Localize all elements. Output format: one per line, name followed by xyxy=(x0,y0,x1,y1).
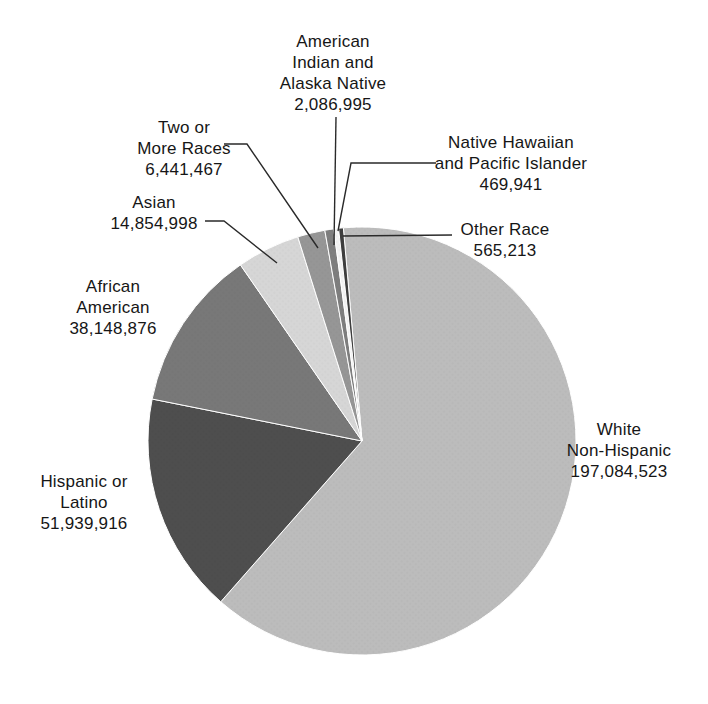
label-line: and Pacific Islander xyxy=(435,153,587,174)
label-line: Latino xyxy=(40,492,127,513)
label-native-hawaiian-pacific-islander: Native Hawaiian and Pacific Islander 469… xyxy=(435,132,587,195)
leader-line-other-race xyxy=(343,235,452,236)
label-value: 565,213 xyxy=(461,240,550,261)
label-line: American xyxy=(280,31,387,52)
label-hispanic-or-latino: Hispanic or Latino 51,939,916 xyxy=(40,471,127,534)
halftone-texture xyxy=(148,227,576,655)
leader-line-native-hawaiian-pacific-islander xyxy=(338,163,436,231)
label-line: Asian xyxy=(110,192,197,213)
label-line: Indian and xyxy=(280,52,387,73)
label-line: American xyxy=(69,297,156,318)
label-white-non-hispanic: White Non-Hispanic 197,084,523 xyxy=(567,419,671,482)
label-line: Native Hawaiian xyxy=(435,132,587,153)
label-line: Alaska Native xyxy=(280,73,387,94)
leader-line-american-indian-alaska-native xyxy=(334,117,336,245)
label-american-indian-alaska-native: American Indian and Alaska Native 2,086,… xyxy=(280,31,387,115)
label-line: More Races xyxy=(137,138,231,159)
label-value: 38,148,876 xyxy=(69,318,156,339)
label-value: 6,441,467 xyxy=(137,159,231,180)
label-line: Two or xyxy=(137,117,231,138)
label-line: Non-Hispanic xyxy=(567,440,671,461)
label-other-race: Other Race 565,213 xyxy=(461,219,550,261)
label-value: 14,854,998 xyxy=(110,213,197,234)
pie-chart-figure: American Indian and Alaska Native 2,086,… xyxy=(0,0,708,704)
label-value: 469,941 xyxy=(435,174,587,195)
label-value: 51,939,916 xyxy=(40,513,127,534)
label-african-american: African American 38,148,876 xyxy=(69,276,156,339)
label-line: Hispanic or xyxy=(40,471,127,492)
label-value: 197,084,523 xyxy=(567,461,671,482)
label-line: African xyxy=(69,276,156,297)
label-asian: Asian 14,854,998 xyxy=(110,192,197,234)
label-line: White xyxy=(567,419,671,440)
label-value: 2,086,995 xyxy=(280,94,387,115)
label-line: Other Race xyxy=(461,219,550,240)
label-two-or-more-races: Two or More Races 6,441,467 xyxy=(137,117,231,180)
